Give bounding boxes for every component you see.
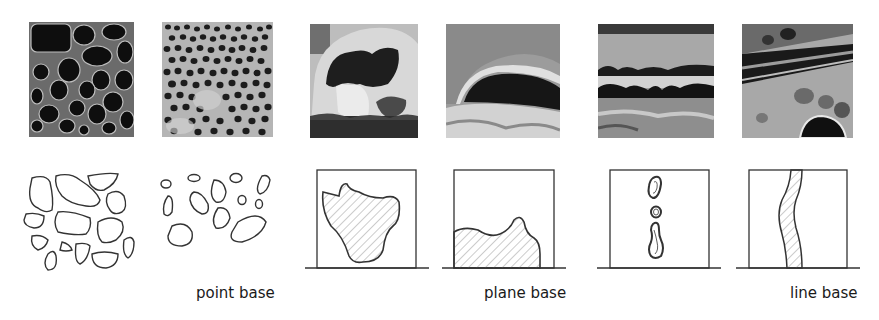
diagram-point-scattered-cells: [158, 170, 273, 270]
photo-plane-overhang-cavity: [446, 24, 560, 138]
label-plane-base: plane base: [484, 284, 566, 302]
diagram-line-vertical-strip: [734, 168, 862, 272]
photo-plane-tafoni-cavity: [310, 24, 418, 138]
diagram-plane-grounded-area: [440, 168, 568, 272]
label-point-base: point base: [196, 284, 275, 302]
diagram-plane-floating-area: [303, 168, 431, 272]
label-line-base: line base: [790, 284, 858, 302]
photo-point-fine-honeycomb: [162, 22, 273, 137]
diagram-line-cell-chain: [595, 168, 723, 272]
diagram-point-large-cells: [18, 170, 138, 275]
photo-point-coarse-honeycomb: [29, 22, 134, 137]
photo-line-fissure-weathering: [742, 24, 853, 138]
photo-line-bedding-cavities: [598, 24, 714, 138]
